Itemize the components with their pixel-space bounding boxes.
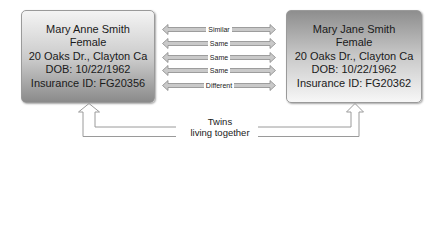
relationship-label: Twins living together xyxy=(180,116,260,138)
relationship-line-2: living together xyxy=(180,127,260,138)
relationship-line-1: Twins xyxy=(180,116,260,127)
